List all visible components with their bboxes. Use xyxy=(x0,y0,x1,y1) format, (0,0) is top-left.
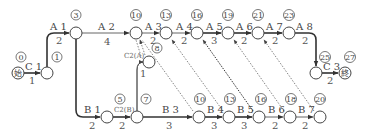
duration-C3: 2 xyxy=(327,75,333,86)
duration-A1: 2 xyxy=(56,35,62,46)
node-b20 xyxy=(314,111,326,123)
node-b10 xyxy=(193,111,205,123)
duration-B5: 3 xyxy=(241,120,247,131)
time-t19: 19 xyxy=(223,11,233,20)
time-b18: 18 xyxy=(286,95,296,104)
time-end: 27 xyxy=(345,53,355,62)
time-8: 8 xyxy=(154,44,159,53)
node-b13 xyxy=(223,111,235,123)
label-A7: A 7 xyxy=(265,21,283,32)
label-A6: A 6 xyxy=(235,21,253,32)
node-t23 xyxy=(283,27,295,39)
duration-C1: 1 xyxy=(29,75,35,86)
duration-A7: 2 xyxy=(272,35,278,46)
label-C1: C 1 xyxy=(25,61,42,72)
node-b7 xyxy=(131,111,143,123)
label-C2B: C2(B) xyxy=(114,106,135,114)
duration-A5: 3 xyxy=(211,35,217,46)
time-3: 3 xyxy=(73,11,78,20)
duration-B7: 2 xyxy=(302,120,308,131)
duration-B4: 3 xyxy=(211,120,217,131)
duration-A2: 4 xyxy=(104,36,110,47)
label-A2: A 2 xyxy=(97,21,115,32)
time-1: 1 xyxy=(54,53,59,62)
node-t19 xyxy=(222,27,234,39)
time-b16: 16 xyxy=(256,95,266,104)
node-t13 xyxy=(160,27,172,39)
duration-C2A: 1 xyxy=(140,68,146,79)
duration-A6: 2 xyxy=(241,35,247,46)
time-b7: 7 xyxy=(143,95,148,104)
node-t16 xyxy=(191,27,203,39)
duration-A4: 2 xyxy=(181,35,187,46)
time-b13: 13 xyxy=(225,95,235,104)
node-8 xyxy=(143,56,155,68)
duration-B1: 2 xyxy=(89,120,95,131)
node-3 xyxy=(70,27,82,39)
label-A3: A 3 xyxy=(144,21,162,32)
node-1 xyxy=(41,67,53,79)
node-b16 xyxy=(253,111,265,123)
label-A1: A 1 xyxy=(49,21,67,32)
label-A5: A 5 xyxy=(205,21,223,32)
label-B1: B 1 xyxy=(84,104,101,115)
duration-B3: 3 xyxy=(166,120,172,131)
time-t21: 21 xyxy=(253,11,263,20)
time-t16: 16 xyxy=(192,11,202,20)
arrow-network-diagram: C 1 1 A 1 2 A 2 4 A 3 2 A 4 2 A 5 3 A 6 … xyxy=(0,0,366,136)
label-A4: A 4 xyxy=(175,21,193,32)
node-t21 xyxy=(252,27,264,39)
label-B4: B 4 xyxy=(207,104,224,115)
node-start-label: 始 xyxy=(14,68,22,78)
time-t10: 10 xyxy=(131,11,141,20)
time-b20: 20 xyxy=(315,95,325,104)
node-t10 xyxy=(130,27,142,39)
duration-C2B: 2 xyxy=(119,120,125,131)
time-b5: 5 xyxy=(117,95,122,104)
time-start: 0 xyxy=(18,53,23,62)
label-C2A: C2(A) xyxy=(124,52,145,60)
label-B3: B 3 xyxy=(162,104,179,115)
node-end-label: 終 xyxy=(341,68,349,78)
node-b18 xyxy=(284,111,296,123)
time-t23: 23 xyxy=(284,11,294,20)
time-t13: 13 xyxy=(161,11,171,20)
duration-A8: 2 xyxy=(302,35,308,46)
time-25: 25 xyxy=(320,53,330,62)
time-b10: 10 xyxy=(195,95,205,104)
node-b5 xyxy=(101,111,113,123)
label-B6: B 6 xyxy=(268,104,285,115)
label-B5: B 5 xyxy=(237,104,254,115)
label-A8: A 8 xyxy=(295,21,313,32)
node-25 xyxy=(310,67,322,79)
label-B7: B 7 xyxy=(298,104,315,115)
duration-B6: 2 xyxy=(272,120,278,131)
